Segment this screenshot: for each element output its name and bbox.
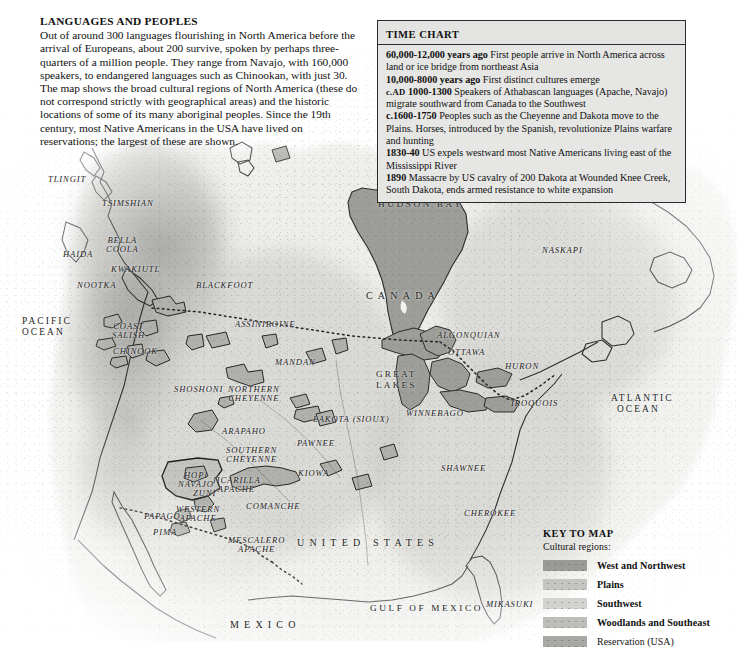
time-chart-panel: TIME CHART 60,000-12,000 years ago First…	[377, 20, 686, 203]
map-label-pawnee: PAWNEE	[297, 439, 335, 448]
legend-row-west-and-northwest: West and Northwest	[543, 556, 733, 575]
time-chart-entry-era: 10,000-8000 years ago	[386, 74, 480, 85]
map-label-canada: CANADA	[366, 291, 440, 302]
legend-swatch-reservation-usa	[543, 636, 587, 647]
map-label-comanche: COMANCHE	[246, 502, 300, 511]
page-title: LANGUAGES AND PEOPLES	[40, 14, 362, 28]
legend-label-west-and-northwest: West and Northwest	[597, 560, 685, 571]
map-label-winnebago: WINNEBAGO	[406, 409, 464, 418]
map-label-coast-salish: COAST SALISH	[112, 322, 145, 340]
map-label-mexico: MEXICO	[230, 620, 301, 631]
map-label-ottawa: OTTAWA	[448, 348, 485, 357]
map-label-cherokee: CHEROKEE	[464, 509, 516, 518]
map-label-western-apache: WESTERN APACHE	[176, 505, 220, 523]
map-label-iroquois: IROQUOIS	[511, 399, 558, 408]
time-chart-entry-era: 1000-1300	[408, 86, 452, 97]
map-label-huron: HURON	[505, 362, 539, 371]
map-label-blackfoot: BLACKFOOT	[196, 281, 253, 290]
map-label-shoshoni: SHOSHONI	[174, 385, 223, 394]
time-chart-entry: 1890 Massacre by US cavalry of 200 Dakot…	[386, 172, 677, 197]
time-chart-entry-era-prefix: c.AD	[386, 87, 406, 97]
legend-title: KEY TO MAP	[543, 528, 733, 539]
time-chart-body: 60,000-12,000 years ago First people arr…	[378, 45, 685, 202]
intro-paragraph: Out of around 300 languages flourishing …	[40, 29, 362, 148]
legend-swatch-woodlands-and-southeast	[543, 617, 587, 628]
map-label-united-states: UNITED STATES	[297, 538, 439, 549]
map-label-bella-coola: BELLA COOLA	[106, 236, 139, 254]
map-label-mandan: MANDAN	[275, 358, 316, 367]
time-chart-title: TIME CHART	[386, 29, 459, 40]
map-label-kwakiutl: KWAKIUTL	[111, 265, 160, 274]
legend-swatch-west-and-northwest	[543, 560, 587, 571]
map-legend: KEY TO MAP Cultural regions: West and No…	[543, 528, 733, 651]
time-chart-entry: c.AD 1000-1300 Speakers of Athabascan la…	[386, 86, 677, 111]
legend-row-southwest: Southwest	[543, 594, 733, 613]
map-label-mikasuki: MIKASUKI	[486, 600, 533, 609]
map-label-kiowa: KIOWA	[298, 469, 329, 478]
legend-label-reservation-usa: Reservation (USA)	[597, 636, 674, 647]
map-label-haida: HAIDA	[63, 250, 93, 259]
time-chart-entry-text: US expels westward most Native Americans…	[386, 147, 671, 170]
intro-text-block: LANGUAGES AND PEOPLES Out of around 300 …	[40, 14, 362, 148]
map-label-great-lakes: GREAT LAKES	[376, 369, 417, 391]
map-label-atlantic-ocean: ATLANTIC OCEAN	[611, 393, 674, 415]
map-label-mescalero-apache: MESCALERO APACHE	[228, 536, 285, 554]
map-label-lakota-sioux: LAKOTA (SIOUX)	[313, 415, 390, 424]
map-label-assiniboine: ASSINIBOINE	[235, 320, 296, 329]
map-label-southern-cheyenne: SOUTHERN CHEYENNE	[226, 446, 277, 464]
map-label-arapaho: ARAPAHO	[222, 427, 266, 436]
map-label-tlingit: TLINGIT	[48, 175, 86, 184]
legend-swatch-plains	[543, 579, 587, 590]
time-chart-entry-text: First distinct cultures emerge	[483, 74, 600, 85]
time-chart-entry-era: c.1600-1750	[386, 110, 437, 121]
time-chart-entry-era: 1830-40	[386, 147, 420, 158]
time-chart-entry-era: 60,000-12,000 years ago	[386, 49, 488, 60]
time-chart-entry: 1830-40 US expels westward most Native A…	[386, 147, 677, 172]
time-chart-entry: c.1600-1750 Peoples such as the Cheyenne…	[386, 110, 677, 147]
time-chart-entry: 60,000-12,000 years ago First people arr…	[386, 49, 677, 74]
map-label-chinook: CHINOOK	[113, 347, 158, 356]
time-chart-entry-text: Massacre by US cavalry of 200 Dakota at …	[386, 172, 670, 195]
map-label-shawnee: SHAWNEE	[441, 464, 486, 473]
map-label-gulf-of-mexico: GULF OF MEXICO	[370, 604, 483, 614]
map-label-tsimshian: TSIMSHIAN	[102, 199, 154, 208]
map-label-jicarilla-apache: JICARILLA APACHE	[212, 476, 261, 494]
legend-row-plains: Plains	[543, 575, 733, 594]
legend-row-woodlands-and-southeast: Woodlands and Southeast	[543, 613, 733, 632]
time-chart-entry-era: 1890	[386, 172, 406, 183]
map-label-pacific-ocean: PACIFIC OCEAN	[22, 316, 72, 338]
map-label-pima: PIMA	[153, 528, 177, 537]
map-label-algonquian: ALGONQUIAN	[437, 331, 500, 340]
time-chart-entry: 10,000-8000 years ago First distinct cul…	[386, 74, 677, 86]
legend-swatch-southwest	[543, 598, 587, 609]
map-label-nootka: NOOTKA	[77, 281, 116, 290]
legend-label-plains: Plains	[597, 579, 624, 590]
time-chart-header: TIME CHART	[378, 21, 685, 45]
legend-label-woodlands-and-southeast: Woodlands and Southeast	[597, 617, 710, 628]
legend-row-reservation-usa: Reservation (USA)	[543, 632, 733, 651]
legend-subtitle: Cultural regions:	[543, 541, 733, 552]
legend-label-southwest: Southwest	[597, 598, 642, 609]
map-label-naskapi: NASKAPI	[542, 246, 583, 255]
map-label-northern-cheyenne: NORTHERN CHEYENNE	[228, 385, 280, 403]
